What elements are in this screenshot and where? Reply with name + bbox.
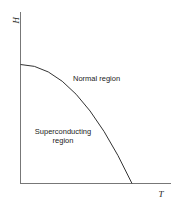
diagram-svg: H T Normal region Superconducting region <box>0 0 183 217</box>
superconducting-region-label-line1: Superconducting <box>35 127 91 136</box>
normal-region-label: Normal region <box>73 74 120 83</box>
x-axis-label: T <box>158 189 164 199</box>
superconducting-region-label-line2: region <box>53 136 74 145</box>
y-axis-label: H <box>11 16 21 24</box>
phase-diagram: H T Normal region Superconducting region <box>0 0 183 217</box>
